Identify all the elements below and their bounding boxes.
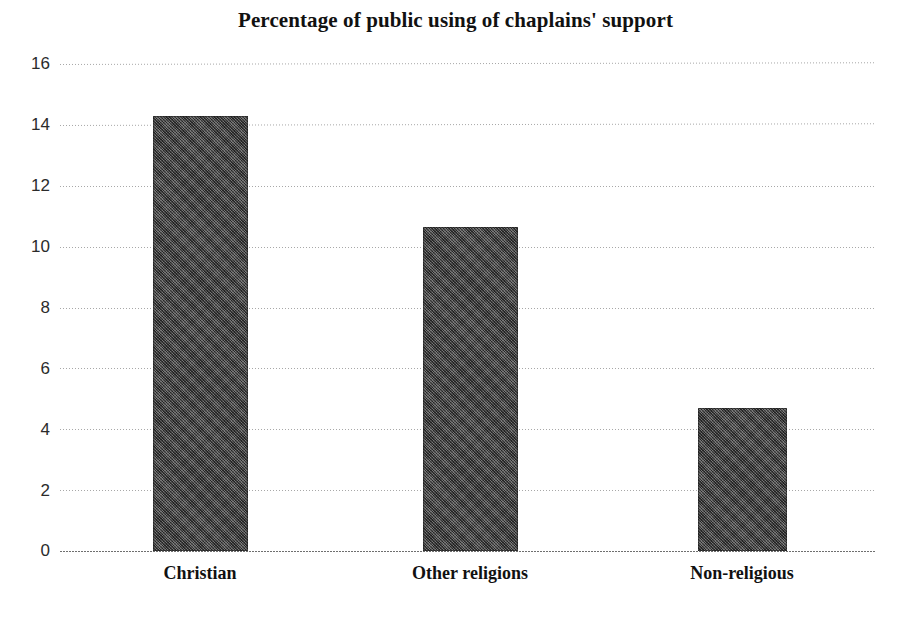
y-tick-label-10: 10: [6, 237, 50, 257]
bar-christian[interactable]: [153, 116, 248, 551]
x-tick-label-christian: Christian: [163, 563, 236, 584]
y-tick-label-6: 6: [6, 359, 50, 379]
plot-area: [60, 64, 875, 551]
y-tick-label-12: 12: [6, 176, 50, 196]
bar-chart-figure: Percentage of public using of chaplains'…: [0, 0, 911, 617]
y-tick-label-4: 4: [6, 420, 50, 440]
x-tick-label-non-religious: Non-religious: [690, 563, 794, 584]
y-tick-label-14: 14: [6, 115, 50, 135]
gridline-0-baseline: [60, 551, 875, 552]
y-tick-label-16: 16: [6, 54, 50, 74]
chart-title: Percentage of public using of chaplains'…: [0, 8, 911, 33]
y-tick-label-0: 0: [6, 541, 50, 561]
bar-non-religious[interactable]: [698, 408, 787, 551]
x-tick-label-other-religions: Other religions: [412, 563, 528, 584]
y-tick-label-8: 8: [6, 298, 50, 318]
gridline-16: [60, 62, 875, 65]
bar-other-religions[interactable]: [423, 227, 518, 551]
y-tick-label-2: 2: [6, 481, 50, 501]
